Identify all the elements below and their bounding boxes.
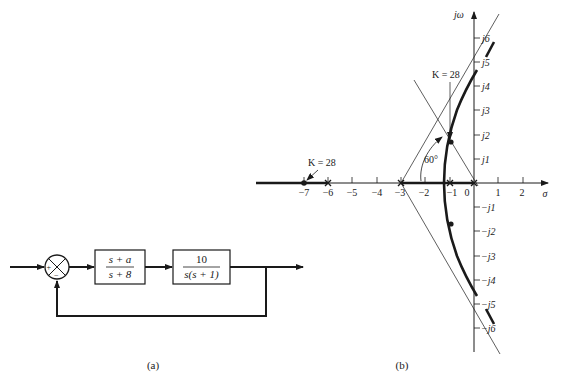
locus-branch-upper [444, 70, 477, 183]
gain-label-complex: K = 28 [432, 69, 460, 80]
damping-line [414, 80, 478, 186]
plant-numerator: 10 [196, 253, 208, 265]
svg-text:2: 2 [520, 187, 525, 198]
svg-text:−6: −6 [323, 187, 334, 198]
block-diagram: + − s + a s + 8 10 s(s + 1) (a) [10, 250, 303, 372]
svg-text:−j1: −j1 [481, 202, 496, 213]
root-locus-plot: −7 −6 −5 −4 −3 −2 −1 0 1 2 σ [256, 9, 549, 372]
plus-sign: + [47, 263, 52, 272]
svg-text:j5: j5 [480, 57, 490, 68]
compensator-denominator: s + 8 [109, 268, 132, 280]
cl-pole-real-dot [301, 180, 307, 186]
jomega-label: jω [452, 9, 464, 20]
caption-b: (b) [396, 359, 409, 372]
sigma-label: σ [543, 188, 549, 199]
svg-text:−j3: −j3 [481, 251, 496, 262]
figure-canvas: + − s + a s + 8 10 s(s + 1) (a) [0, 0, 562, 381]
plant-denominator: s(s + 1) [184, 268, 219, 281]
svg-text:−j2: −j2 [481, 226, 496, 237]
svg-text:−4: −4 [372, 187, 383, 198]
gain-pointer-real [307, 170, 318, 180]
compensator-numerator: s + a [109, 253, 132, 265]
svg-text:−2: −2 [419, 187, 430, 198]
svg-text:−j5: −j5 [481, 299, 496, 310]
feedback-path [57, 267, 266, 316]
real-axis-labels: −7 −6 −5 −4 −3 −2 −1 0 1 2 σ [299, 187, 549, 199]
compensator-block: s + a s + 8 [95, 250, 145, 284]
summing-junction: + − [45, 255, 69, 280]
svg-text:0: 0 [465, 187, 470, 198]
locus-branch-lower [444, 183, 477, 296]
svg-text:j3: j3 [480, 105, 490, 116]
locus-branch-lower-ext [486, 309, 494, 324]
svg-text:−1: −1 [447, 187, 458, 198]
svg-text:−3: −3 [395, 187, 406, 198]
svg-text:j2: j2 [480, 130, 490, 141]
locus-branch-upper-ext [486, 42, 494, 57]
minus-sign: − [54, 271, 59, 280]
svg-text:−j4: −j4 [481, 275, 496, 286]
svg-text:−7: −7 [299, 187, 310, 198]
svg-text:j4: j4 [480, 81, 490, 92]
angle-label: 60° [424, 154, 438, 165]
plant-block: 10 s(s + 1) [173, 250, 230, 284]
svg-text:−5: −5 [347, 187, 358, 198]
svg-text:1: 1 [496, 187, 501, 198]
cl-pole-lower-dot [448, 221, 453, 226]
svg-text:j1: j1 [480, 154, 490, 165]
gain-label-real: K = 28 [308, 157, 336, 168]
caption-a: (a) [147, 359, 160, 372]
cl-pole-upper-dot [448, 139, 453, 144]
